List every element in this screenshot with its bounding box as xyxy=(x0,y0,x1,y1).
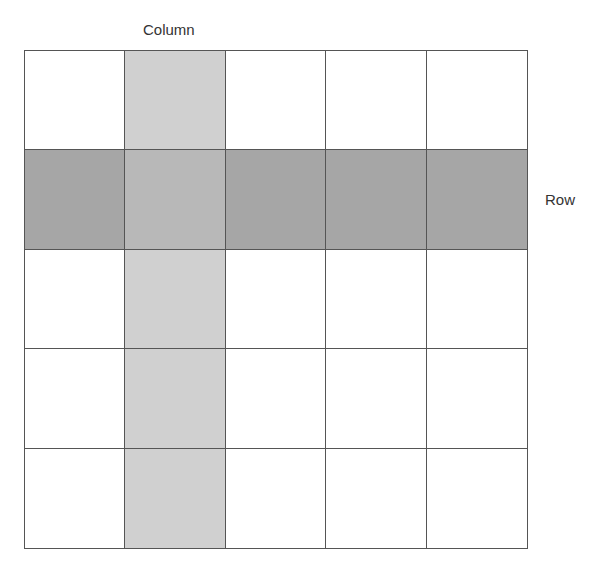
grid-cell xyxy=(427,51,527,150)
grid-cell xyxy=(226,250,326,349)
grid-cell xyxy=(326,250,426,349)
grid xyxy=(24,50,528,549)
column-label: Column xyxy=(143,21,195,38)
grid-cell xyxy=(25,51,125,150)
grid-cell xyxy=(226,349,326,448)
grid-cell-row xyxy=(25,150,125,249)
grid-cell xyxy=(25,250,125,349)
grid-cell xyxy=(326,349,426,448)
grid-cell-row xyxy=(226,150,326,249)
grid-cell-row xyxy=(326,150,426,249)
grid-cell xyxy=(326,449,426,548)
grid-cell xyxy=(427,449,527,548)
grid-cell-column xyxy=(125,51,225,150)
grid-cell-column xyxy=(125,449,225,548)
grid-cell-column xyxy=(125,250,225,349)
grid-cell xyxy=(326,51,426,150)
grid-cell xyxy=(25,449,125,548)
row-label: Row xyxy=(545,191,575,208)
grid-cell xyxy=(25,349,125,448)
grid-cell-column xyxy=(125,349,225,448)
grid-cell xyxy=(427,349,527,448)
grid-cell xyxy=(226,449,326,548)
grid-cell-row xyxy=(427,150,527,249)
grid-cell xyxy=(427,250,527,349)
grid-cell xyxy=(226,51,326,150)
grid-cell-intersection xyxy=(125,150,225,249)
